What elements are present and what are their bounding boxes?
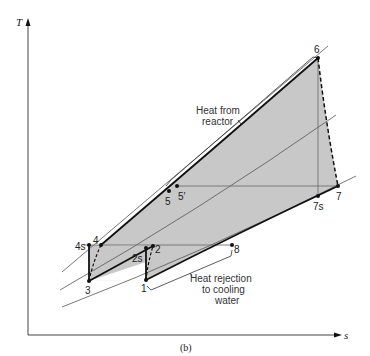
label-point-2: 2	[155, 244, 161, 255]
label-point-2s: 2s	[132, 253, 143, 264]
ts-diagram: 6 7 7s 5 5′ 4 4s 3 2 2s 1 8 Heat from re…	[0, 0, 370, 356]
y-axis-label: T	[16, 16, 23, 28]
label-point-8: 8	[234, 244, 240, 255]
label-point-6: 6	[314, 44, 320, 55]
x-axis-arrow-icon	[334, 333, 342, 338]
annotation-heat-rejection-3: water	[214, 295, 240, 306]
label-point-5: 5	[165, 196, 171, 207]
annotation-heat-rejection-1: Heat rejection	[190, 273, 252, 284]
label-point-3: 3	[85, 285, 91, 296]
annotation-heat-from-reactor-2: reactor	[202, 116, 234, 127]
annotation-heat-from-reactor-1: Heat from	[196, 105, 240, 116]
annotation-heat-rejection-2: to cooling	[202, 284, 245, 295]
label-point-7: 7	[336, 191, 342, 202]
label-point-5prime: 5′	[178, 191, 186, 202]
label-point-1: 1	[141, 283, 147, 294]
x-axis-label: s	[344, 329, 348, 341]
figure-caption: (b)	[180, 342, 192, 354]
label-point-7s: 7s	[313, 201, 324, 212]
label-point-4: 4	[93, 235, 99, 246]
y-axis-arrow-icon	[26, 18, 31, 26]
label-point-4s: 4s	[75, 241, 86, 252]
